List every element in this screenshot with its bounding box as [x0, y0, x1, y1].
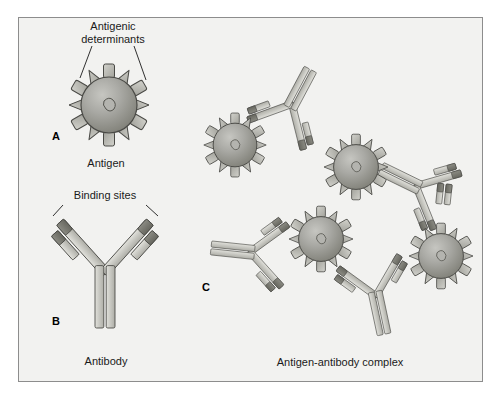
antibody-left-free — [207, 211, 291, 294]
figure-root: Antigenic determinants A Antigen Binding… — [0, 0, 501, 399]
callout-lines-binding-sites — [53, 205, 158, 216]
antibody-bottom — [332, 252, 421, 342]
label-binding-sites: Binding sites — [74, 189, 137, 201]
antigen-bottom-right — [409, 223, 473, 289]
panel-a: Antigenic determinants A Antigen — [52, 20, 149, 169]
panel-c: C Antigen-antibody complex — [202, 52, 473, 368]
antibody-fragment-right — [436, 183, 452, 205]
antibody-top-center — [241, 52, 343, 155]
figure-canvas: Antigenic determinants A Antigen Binding… — [0, 0, 501, 399]
antigen-top-left — [204, 113, 266, 177]
label-antibody: Antibody — [85, 355, 128, 367]
panel-b: Binding sites B Antibody — [51, 189, 158, 367]
panel-c-letter: C — [202, 281, 210, 293]
label-antigenic-determinants-line1: Antigenic — [90, 20, 136, 32]
antigen-bottom-left — [289, 206, 353, 272]
antigen-top-right — [324, 134, 388, 200]
label-antigenic-determinants-line2: determinants — [81, 33, 145, 45]
antibody-panel-b — [51, 219, 158, 328]
label-antigen-antibody-complex: Antigen-antibody complex — [277, 356, 404, 368]
label-antigen: Antigen — [87, 157, 124, 169]
panel-a-letter: A — [52, 130, 60, 142]
panel-b-letter: B — [52, 315, 60, 327]
